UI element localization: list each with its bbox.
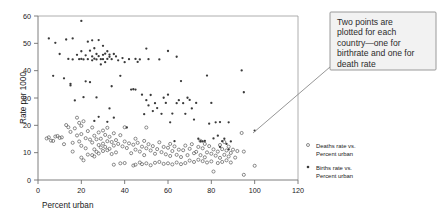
data-point-births (93, 57, 95, 59)
data-point-births (76, 54, 78, 56)
data-point-births (173, 140, 175, 142)
data-point-births (115, 55, 117, 57)
x-axis-title: Percent urban (42, 201, 94, 210)
data-point-births (150, 94, 152, 96)
data-point-births (106, 58, 108, 60)
y-tick-label: 10 (23, 148, 31, 157)
y-tick-label: 0 (27, 176, 31, 185)
data-point-births (117, 59, 119, 61)
data-point-births (197, 138, 199, 140)
data-point-births (176, 102, 178, 104)
data-point-births (225, 143, 227, 145)
data-point-births (93, 47, 95, 49)
data-point-births (145, 99, 147, 101)
data-point-births (124, 61, 126, 63)
data-point-births (182, 102, 184, 104)
data-point-births (119, 75, 121, 77)
data-point-births (176, 56, 178, 58)
data-point-births (89, 81, 91, 83)
data-point-births (78, 58, 80, 60)
data-point-births (143, 113, 145, 115)
data-point-births (139, 58, 141, 60)
data-point-births (219, 121, 221, 123)
data-point-births (113, 53, 115, 55)
x-tick-label: 120 (292, 186, 304, 195)
data-point-births (98, 39, 100, 41)
data-point-births (137, 61, 139, 63)
data-point-births (74, 99, 76, 101)
data-point-births (102, 45, 104, 47)
data-point-births (180, 80, 182, 82)
data-point-births (89, 50, 91, 52)
scatter-chart-figure: 0102030405060 020406080100120 Rate per 1… (0, 0, 443, 216)
data-point-births (95, 96, 97, 98)
legend-label-deaths-line1: Deaths rate vs. (316, 143, 356, 149)
data-point-births (113, 117, 115, 119)
data-point-births (82, 58, 84, 60)
data-point-births (98, 55, 100, 57)
x-tick-label: 20 (77, 186, 85, 195)
data-point-births (48, 37, 50, 39)
callout-text-line: country—one for (337, 38, 401, 48)
data-point-births (104, 53, 106, 55)
data-point-births (230, 140, 232, 142)
data-point-births (212, 137, 214, 139)
data-point-births (59, 53, 61, 55)
data-point-births (65, 38, 67, 40)
data-point-births (91, 59, 93, 61)
data-point-births (82, 96, 84, 98)
data-point-births (85, 80, 87, 82)
data-point-births (93, 120, 95, 122)
data-point-births (156, 107, 158, 109)
data-point-births (219, 146, 221, 148)
data-point-births (102, 54, 104, 56)
callout-text-line: Two points are (337, 17, 393, 27)
data-point-births (100, 58, 102, 60)
data-point-births (111, 58, 113, 60)
data-point-births (152, 110, 154, 112)
data-point-births (160, 113, 162, 115)
callout-text-line: plotted for each (337, 27, 396, 37)
data-point-births (87, 41, 89, 43)
data-point-births (72, 37, 74, 39)
data-point-births (141, 94, 143, 96)
data-point-births (167, 50, 169, 52)
data-point-births (128, 58, 130, 60)
x-tick-label: 80 (207, 186, 215, 195)
x-tick-label: 60 (164, 186, 172, 195)
data-point-births (87, 58, 89, 60)
data-point-births (215, 121, 217, 123)
x-tick-label: 40 (121, 186, 129, 195)
data-point-births (91, 39, 93, 41)
data-point-births (104, 61, 106, 63)
data-point-births (191, 107, 193, 109)
callout-text-line: death rate (337, 59, 376, 69)
y-axis-title: Rate per 1000 (19, 72, 28, 124)
legend-marker-births-icon (307, 166, 310, 169)
data-point-births (163, 97, 165, 99)
data-point-births (85, 54, 87, 56)
data-point-births (52, 75, 54, 77)
data-point-births (130, 88, 132, 90)
data-point-births (178, 99, 180, 101)
data-point-births (228, 121, 230, 123)
data-point-births (102, 58, 104, 60)
data-point-births (54, 42, 56, 44)
y-tick-label: 60 (23, 12, 31, 21)
data-point-births (126, 126, 128, 128)
data-point-births (132, 88, 134, 90)
x-tick-label: 100 (249, 186, 261, 195)
data-point-births (167, 94, 169, 96)
data-point-births (111, 85, 113, 87)
data-point-births (134, 88, 136, 90)
data-point-births (100, 63, 102, 65)
data-point-births (91, 55, 93, 57)
data-point-births (195, 102, 197, 104)
data-point-births (147, 104, 149, 106)
x-tick-label: 0 (36, 186, 40, 195)
data-point-births (241, 69, 243, 71)
data-point-births (202, 140, 204, 142)
data-point-births (147, 58, 149, 60)
data-point-births (106, 50, 108, 52)
data-point-births (208, 123, 210, 125)
